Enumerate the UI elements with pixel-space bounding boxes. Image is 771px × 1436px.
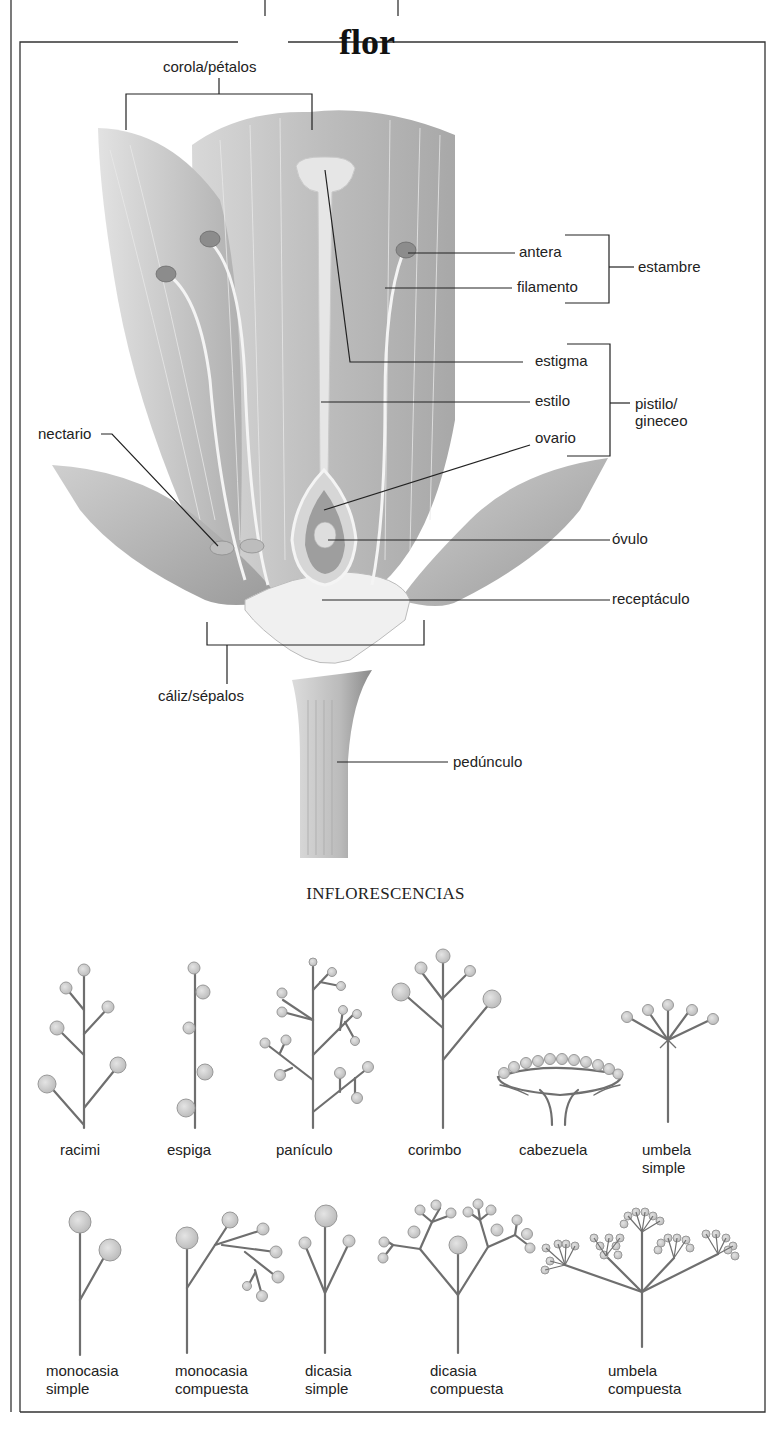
label-ovario: ovario <box>535 429 576 446</box>
label-caliz: cáliz/sépalos <box>158 687 244 704</box>
label-ovulo: óvulo <box>612 530 648 547</box>
infl-label-umbela-simple: umbelasimple <box>642 1141 691 1177</box>
label-pistilo: pistilo/ gineceo <box>635 395 688 429</box>
label-pistilo-line1: pistilo/ <box>635 395 678 412</box>
infl-label-paniculo: panículo <box>276 1141 333 1159</box>
label-receptaculo: receptáculo <box>612 590 690 607</box>
infl-label-cabezuela: cabezuela <box>519 1141 587 1159</box>
inflorescence-drawings <box>48 960 718 1355</box>
label-pistilo-line2: gineceo <box>635 412 688 429</box>
infl-label-monocasia-simple: monocasiasimple <box>46 1362 119 1398</box>
label-antera: antera <box>519 243 562 260</box>
inflorescences-heading: INFLORESCENCIAS <box>0 884 771 904</box>
label-estambre: estambre <box>638 258 701 275</box>
infl-label-dicasia-simple: dicasiasimple <box>305 1362 352 1398</box>
infl-label-dicasia-compuesta: dicasiacompuesta <box>430 1362 503 1398</box>
label-estilo: estilo <box>535 392 570 409</box>
infl-label-umbela-compuesta: umbelacompuesta <box>608 1362 681 1398</box>
label-pedunculo: pedúnculo <box>453 753 522 770</box>
infl-label-racimi: racimi <box>60 1141 100 1159</box>
label-nectario: nectario <box>38 425 91 442</box>
figure-title: flor <box>339 22 395 62</box>
label-filamento: filamento <box>517 278 578 295</box>
label-estigma: estigma <box>535 352 588 369</box>
infl-label-espiga: espiga <box>167 1141 211 1159</box>
label-corola: corola/pétalos <box>163 58 256 75</box>
infl-label-corimbo: corimbo <box>408 1141 461 1159</box>
flower-diagram <box>0 0 771 1436</box>
infl-label-monocasia-compuesta: monocasiacompuesta <box>175 1362 248 1398</box>
